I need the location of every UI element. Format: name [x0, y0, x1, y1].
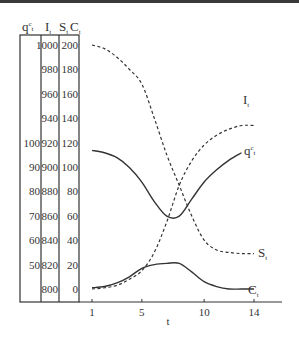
tick-label-s: 100	[62, 161, 79, 173]
tick-label-i: 900	[42, 161, 59, 173]
tick-label-s: 80	[67, 185, 79, 197]
tick-label-i: 800	[42, 283, 59, 295]
header-c: Ct	[70, 19, 81, 36]
tick-label-q: 100	[24, 137, 41, 149]
tick-label-s: 0	[73, 283, 79, 295]
axis-tick-labels: 1000200980180960160940140100920120909001…	[24, 39, 79, 295]
tick-label-s: 60	[67, 210, 79, 222]
x-tick-label: 1	[89, 306, 95, 318]
tick-label-q: 50	[29, 259, 41, 271]
series-labels: It qct St Ct	[243, 92, 267, 299]
tick-label-q: 70	[29, 210, 41, 222]
tick-label-i: 1000	[36, 39, 59, 51]
tick-label-q: 80	[29, 185, 41, 197]
header-q: qct	[22, 19, 34, 34]
tick-label-s: 160	[62, 88, 79, 100]
tick-label-i: 880	[42, 185, 59, 197]
header-i: It	[45, 19, 51, 36]
tick-label-i: 820	[42, 259, 59, 271]
series-line-st	[92, 45, 254, 254]
tick-label-s: 20	[67, 259, 79, 271]
tick-label-i: 980	[42, 63, 59, 75]
tick-label-s: 180	[62, 63, 79, 75]
tick-label-i: 940	[42, 112, 59, 124]
header-s: St	[59, 19, 68, 36]
tick-label-s: 120	[62, 137, 79, 149]
x-tick-label: 14	[249, 306, 261, 318]
tick-label-s: 140	[62, 112, 79, 124]
label-q: qct	[244, 143, 256, 158]
x-axis-label: t	[166, 315, 169, 327]
chart: qct It St Ct 100020098018096016094014010…	[0, 0, 299, 342]
x-tick-label: 5	[139, 306, 145, 318]
x-axis: 151014 t	[79, 299, 282, 327]
x-tick-label: 10	[199, 306, 211, 318]
tick-label-s: 40	[67, 234, 79, 246]
label-s: St	[258, 245, 267, 262]
column-headers: qct It St Ct	[22, 19, 81, 36]
tick-label-q: 60	[29, 234, 41, 246]
tick-label-i: 860	[42, 210, 59, 222]
tick-label-q: 90	[29, 161, 41, 173]
label-c: Ct	[248, 282, 259, 299]
series-line-qct	[92, 150, 242, 218]
tick-label-i: 960	[42, 88, 59, 100]
tick-label-i: 920	[42, 137, 59, 149]
tick-label-i: 840	[42, 234, 59, 246]
tick-label-s: 200	[62, 39, 79, 51]
label-i: It	[243, 92, 249, 109]
series-line-it	[92, 125, 254, 289]
